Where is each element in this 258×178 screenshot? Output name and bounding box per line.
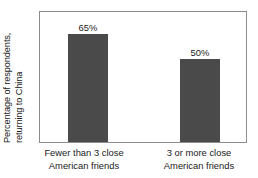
bar-fewer-than-3-close-american-friends[interactable] bbox=[68, 34, 108, 142]
bar-3-or-more-close-american-friends[interactable] bbox=[180, 59, 220, 142]
bar-value-label-1: 50% bbox=[166, 47, 234, 58]
y-axis-title-line-1: Percentage of respondents, bbox=[2, 33, 12, 143]
category-label-0-line-2: American friends bbox=[30, 160, 138, 173]
bar-chart-figure: Percentage of respondents, returning to … bbox=[0, 0, 258, 178]
y-axis-title-line-2: returning to China bbox=[14, 72, 24, 143]
x-axis-category-label-0: Fewer than 3 close American friends bbox=[30, 147, 138, 172]
y-axis-title: Percentage of respondents, returning to … bbox=[0, 11, 38, 143]
bar-group-3-or-more: 50% bbox=[180, 59, 220, 142]
bar-group-fewer-than-3: 65% bbox=[68, 34, 108, 142]
category-label-0-line-1: Fewer than 3 close bbox=[30, 147, 138, 160]
x-axis-category-label-1: 3 or more close American friends bbox=[146, 147, 252, 172]
plot-area: 65% 50% bbox=[39, 11, 247, 143]
category-label-1-line-2: American friends bbox=[146, 160, 252, 173]
bar-value-label-0: 65% bbox=[54, 22, 122, 33]
category-label-1-line-1: 3 or more close bbox=[146, 147, 252, 160]
